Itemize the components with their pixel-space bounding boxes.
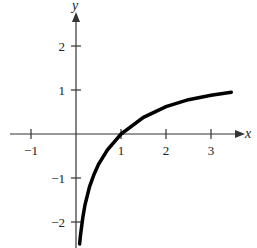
x-tick-label: 1 [118,143,125,158]
curve-ln-x [80,92,232,244]
chart-plot: −112321−1−2 x y [0,0,257,248]
x-tick-label: 2 [163,143,170,158]
y-tick-label: 2 [59,39,66,54]
x-tick-label: 3 [208,143,215,158]
x-axis-label: x [244,126,252,141]
y-tick-label: 1 [59,83,66,98]
y-tick-label: −1 [51,171,65,186]
y-tick-label: −2 [51,215,65,230]
x-tick-label: −1 [24,143,38,158]
y-axis-label: y [70,0,79,13]
